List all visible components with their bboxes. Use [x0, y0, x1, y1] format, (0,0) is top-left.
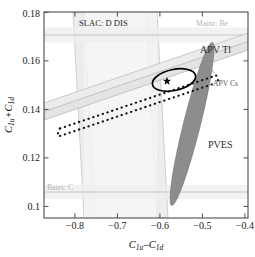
- constraint-plot: −0.8 −0.7 −0.6 −0.5 −0.4 0.1 0.12 0.14 0…: [0, 0, 255, 257]
- x-tick-label-3: −0.5: [193, 220, 211, 231]
- label-slac: SLAC: D DIS: [79, 18, 128, 28]
- x-tick-label-2: −0.6: [151, 220, 169, 231]
- figure-root: −0.8 −0.7 −0.6 −0.5 −0.4 0.1 0.12 0.14 0…: [0, 0, 255, 257]
- label-bates: Bates: C: [47, 183, 73, 192]
- y-tick-label-2: 0.14: [23, 104, 41, 115]
- y-tick-label-1: 0.12: [23, 152, 41, 163]
- label-pves: PVES: [208, 139, 232, 150]
- y-tick-label-3: 0.16: [23, 55, 41, 66]
- x-tick-label-0: −0.8: [66, 220, 84, 231]
- x-tick-label-4: −0.4: [236, 220, 254, 231]
- plot-content: [44, 12, 248, 218]
- label-apv-tl: APV Tl: [200, 44, 231, 55]
- label-mainz: Mainz: Be: [196, 19, 228, 28]
- y-tick-label-4: 0.18: [23, 8, 41, 19]
- x-tick-label-1: −0.7: [108, 220, 126, 231]
- y-tick-label-0: 0.1: [28, 201, 41, 212]
- label-apv-cs: APV Cs: [213, 79, 238, 88]
